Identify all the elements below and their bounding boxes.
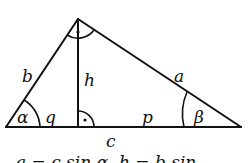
label-a: a xyxy=(174,66,184,86)
right-angle-dot-top xyxy=(76,30,79,33)
angle-beta-arc xyxy=(182,92,187,127)
triangle-diagram: b h a α q p β c a = c sin α, h = b sin xyxy=(0,0,248,163)
label-alpha: α xyxy=(17,107,29,127)
label-c: c xyxy=(106,131,116,151)
label-q: q xyxy=(45,107,56,127)
formula-line: a = c sin α, h = b sin xyxy=(16,152,196,163)
right-angle-arc-top xyxy=(67,30,94,38)
right-angle-dot-foot xyxy=(83,118,86,121)
label-beta: β xyxy=(193,107,204,127)
label-h: h xyxy=(84,70,95,90)
label-p: p xyxy=(142,107,153,127)
side-a-line xyxy=(78,19,241,127)
label-b: b xyxy=(22,66,33,86)
